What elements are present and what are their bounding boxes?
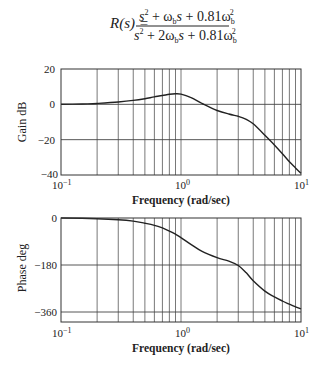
gain-xlabel: Frequency (rad/sec) — [132, 194, 230, 207]
gain-curve — [61, 94, 301, 174]
gain-ylabel: Gain dB — [15, 102, 29, 142]
phase-xlabel: Frequency (rad/sec) — [132, 342, 230, 355]
gain-grid — [61, 69, 301, 175]
formula-denominator: s2 + 2ωbs + 0.81ωb2 — [134, 27, 237, 44]
phase-ytick-neg180: −180 — [34, 259, 57, 271]
phase-xtick-1: 100 — [175, 326, 190, 339]
phase-xtick-10: 101 — [294, 326, 309, 339]
gain-ytick-neg40: −40 — [41, 168, 59, 180]
gain-xtick-10: 101 — [294, 178, 309, 191]
phase-ytick-neg360: −360 — [34, 306, 57, 318]
gain-xticks: 10−1 100 101 — [52, 178, 309, 191]
gain-frame — [61, 69, 301, 175]
phase-curve — [61, 218, 301, 309]
formula-numerator: s2 + ωbs + 0.81ωb2 — [139, 8, 235, 26]
phase-xtick-0.1: 10−1 — [52, 326, 72, 339]
phase-xticks: 10−1 100 101 — [52, 326, 309, 339]
phase-ytick-0: 0 — [52, 212, 58, 224]
gain-xtick-1: 100 — [175, 178, 190, 191]
gain-xtick-0.1: 10−1 — [52, 178, 72, 191]
transfer-function-formula: R(s) = s2 + ωbs + 0.81ωb2 s2 + 2ωbs + 0.… — [0, 4, 326, 44]
phase-ylabel: Phase deg — [15, 244, 29, 292]
gain-ytick-neg20: −20 — [38, 134, 56, 146]
gain-plot: 20 0 −20 −40 Gain dB 10−1 100 101 Freque… — [0, 0, 326, 367]
phase-frame — [61, 218, 301, 322]
gain-ytick-20: 20 — [44, 63, 56, 75]
gain-ytick-0: 0 — [50, 98, 56, 110]
phase-grid — [61, 218, 301, 322]
